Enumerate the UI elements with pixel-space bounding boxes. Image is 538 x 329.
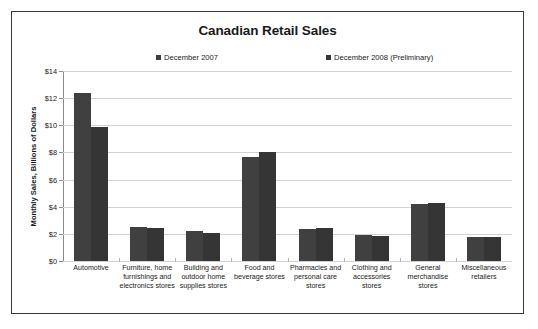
y-axis-title: Monthly Sales, Billions of Dollars	[28, 71, 40, 262]
x-axis-category-label: Clothing and accessories stores	[344, 264, 400, 292]
bar[interactable]	[355, 235, 372, 261]
legend-entry-december-2008: December 2008 (Preliminary)	[326, 53, 433, 62]
bar[interactable]	[316, 228, 333, 261]
y-axis-tick-label: $8	[49, 148, 57, 157]
bar-group[interactable]	[288, 228, 344, 261]
category-separator	[344, 258, 345, 262]
legend-label: December 2008 (Preliminary)	[334, 53, 433, 62]
y-axis-tick	[59, 261, 63, 262]
y-axis-tick-label: $6	[49, 175, 57, 184]
bar-group[interactable]	[344, 235, 400, 261]
category-separator	[231, 258, 232, 262]
bar[interactable]	[299, 229, 316, 261]
x-axis-category-label: Pharmacies and personal care stores	[288, 264, 344, 292]
x-axis-category-label: Furniture, home furnishings and electron…	[119, 264, 175, 292]
bar-group[interactable]	[231, 152, 287, 261]
gridline	[63, 98, 512, 99]
y-axis-tick-label: $4	[49, 202, 57, 211]
plot-area: $0$2$4$6$8$10$12$14	[63, 71, 512, 262]
bar[interactable]	[372, 236, 389, 261]
bar-group[interactable]	[119, 227, 175, 261]
category-separator	[456, 258, 457, 262]
category-separator	[400, 258, 401, 262]
x-axis-category-labels: AutomotiveFurniture, home furnishings an…	[63, 264, 512, 312]
chart-title: Canadian Retail Sales	[12, 23, 523, 38]
bar-group[interactable]	[175, 231, 231, 261]
y-axis-tick-label: $10	[45, 121, 57, 130]
y-axis-tick-label: $2	[49, 229, 57, 238]
gridline	[63, 125, 512, 126]
bar[interactable]	[186, 231, 203, 261]
bar[interactable]	[259, 152, 276, 261]
bar[interactable]	[130, 227, 147, 261]
bar[interactable]	[147, 228, 164, 261]
bar-group[interactable]	[400, 203, 456, 261]
bar-group[interactable]	[63, 93, 119, 261]
x-axis-category-label: Food and beverage stores	[231, 264, 287, 282]
gridline	[63, 180, 512, 181]
gridline	[63, 152, 512, 153]
legend-swatch-icon	[326, 55, 331, 60]
x-axis-category-label: Automotive	[63, 264, 119, 273]
y-axis-tick-label: $12	[45, 94, 57, 103]
bar-group[interactable]	[456, 237, 512, 261]
x-axis-category-label: Building and outdoor home supplies store…	[175, 264, 231, 292]
bar[interactable]	[242, 157, 259, 262]
x-axis-category-label: Miscellaneous retailers	[456, 264, 512, 282]
bar[interactable]	[203, 233, 220, 262]
bar[interactable]	[484, 237, 501, 261]
legend-label: December 2007	[164, 53, 218, 62]
category-separator	[288, 258, 289, 262]
y-axis-tick-label: $0	[49, 257, 57, 266]
chart-container: Canadian Retail Sales December 2007 Dece…	[11, 11, 524, 314]
y-axis-tick-label: $14	[45, 67, 57, 76]
chart-legend: December 2007 December 2008 (Preliminary…	[12, 53, 523, 67]
bar[interactable]	[411, 204, 428, 261]
legend-swatch-icon	[156, 55, 161, 60]
category-separator	[119, 258, 120, 262]
gridline	[63, 71, 512, 72]
category-separator	[175, 258, 176, 262]
bar[interactable]	[467, 237, 484, 261]
bar[interactable]	[91, 127, 108, 261]
bar[interactable]	[74, 93, 91, 261]
bar[interactable]	[428, 203, 445, 261]
x-axis-category-label: General merchandise stores	[400, 264, 456, 292]
legend-entry-december-2007: December 2007	[156, 53, 218, 62]
y-axis-tick	[59, 71, 63, 72]
